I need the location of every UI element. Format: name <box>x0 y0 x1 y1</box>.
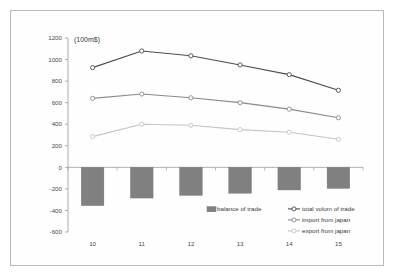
data-point-export-from-japan <box>140 122 144 126</box>
data-point-export-from-japan <box>90 135 94 139</box>
line-series-export-from-japan <box>90 122 340 141</box>
x-tick-label: 13 <box>237 240 244 247</box>
y-tick-label: 200 <box>52 142 63 149</box>
data-point-import-from-japan <box>238 101 242 105</box>
x-tick-label: 10 <box>89 240 96 247</box>
bar-balance-of-trade <box>81 167 104 205</box>
y-tick-label: -200 <box>50 185 63 192</box>
y-tick-label: -400 <box>50 207 63 214</box>
data-point-export-from-japan <box>189 123 193 127</box>
y-tick-label: 800 <box>52 77 63 84</box>
data-point-import-from-japan <box>336 116 340 120</box>
y-tick-label: -600 <box>50 228 63 235</box>
data-point-total-volum-of-trade <box>287 73 291 77</box>
legend-label-total-volum-of-trade: total volum of trade <box>302 205 355 212</box>
trade-chart: 120010008006004002000-200-400-6001011121… <box>11 11 385 267</box>
bar-balance-of-trade <box>130 167 153 198</box>
legend-label-balance-of-trade: balance of trade <box>217 205 262 212</box>
y-tick-label: 0 <box>59 164 63 171</box>
figure-frame: 120010008006004002000-200-400-6001011121… <box>10 10 384 266</box>
data-point-export-from-japan <box>238 128 242 132</box>
x-tick-label: 12 <box>187 240 194 247</box>
x-tick-label: 15 <box>335 240 342 247</box>
bar-balance-of-trade <box>327 167 350 188</box>
data-point-total-volum-of-trade <box>189 54 193 58</box>
bar-balance-of-trade <box>229 167 252 193</box>
line-path-total-volum-of-trade <box>93 51 339 90</box>
x-tick-label: 14 <box>286 240 293 247</box>
bar-balance-of-trade <box>278 167 301 190</box>
bar-balance-of-trade <box>180 167 203 195</box>
line-series-import-from-japan <box>90 92 340 120</box>
legend-marker-export-from-japan <box>292 229 296 233</box>
unit-annotation: (100m$) <box>74 36 100 44</box>
chart-legend: balance of tradetotal volum of tradeimpo… <box>207 205 355 234</box>
data-point-export-from-japan <box>336 137 340 141</box>
plot-area: 120010008006004002000-200-400-6001011121… <box>11 11 385 267</box>
data-point-import-from-japan <box>90 96 94 100</box>
data-point-total-volum-of-trade <box>90 66 94 70</box>
data-point-total-volum-of-trade <box>140 49 144 53</box>
data-point-export-from-japan <box>287 130 291 134</box>
data-point-total-volum-of-trade <box>238 63 242 67</box>
data-point-total-volum-of-trade <box>336 88 340 92</box>
data-point-import-from-japan <box>287 107 291 111</box>
legend-label-import-from-japan: import from japan <box>302 216 351 223</box>
legend-swatch-balance-of-trade <box>207 207 216 212</box>
line-path-export-from-japan <box>93 124 339 139</box>
line-path-import-from-japan <box>93 94 339 118</box>
data-point-import-from-japan <box>140 92 144 96</box>
y-tick-label: 400 <box>52 120 63 127</box>
y-tick-label: 1200 <box>48 34 62 41</box>
legend-label-export-from-japan: export from japan <box>302 227 351 234</box>
legend-marker-total-volum-of-trade <box>292 207 296 211</box>
y-tick-label: 1000 <box>48 56 62 63</box>
data-point-import-from-japan <box>189 96 193 100</box>
legend-marker-import-from-japan <box>292 218 296 222</box>
chart-page: 120010008006004002000-200-400-6001011121… <box>0 0 394 276</box>
bar-series-balance-of-trade <box>81 167 349 205</box>
line-series-total-volum-of-trade <box>90 49 340 93</box>
x-tick-label: 11 <box>139 240 146 247</box>
y-axis: 120010008006004002000-200-400-600 <box>48 34 68 235</box>
y-tick-label: 600 <box>52 99 63 106</box>
